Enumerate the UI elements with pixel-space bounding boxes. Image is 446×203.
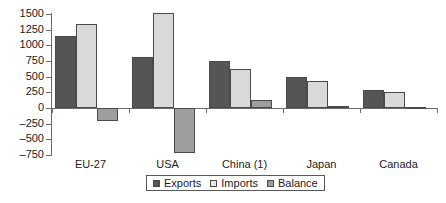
bar-imports-usa (153, 13, 174, 108)
y-tick-mark (46, 139, 52, 140)
bar-balance-canada (405, 107, 426, 109)
bar-imports-japan (307, 81, 328, 108)
x-tick-mark (129, 108, 130, 113)
legend-item-exports: Exports (153, 178, 201, 189)
bar-chart: 1500125010007505002500–250–500–750 EU-27… (0, 0, 446, 203)
x-axis-label-japan: Japan (283, 158, 360, 170)
legend-item-balance: Balance (267, 178, 318, 189)
y-tick-label: –750 (20, 149, 44, 160)
legend-label-imports: Imports (221, 178, 258, 189)
x-tick-mark (206, 108, 207, 113)
bar-exports-usa (132, 57, 153, 108)
y-tick-label: 750 (26, 55, 44, 66)
legend-label-exports: Exports (164, 178, 201, 189)
bar-balance-china-1 (251, 100, 272, 108)
x-axis-label-usa: USA (129, 158, 206, 170)
bar-balance-usa (174, 108, 195, 153)
x-axis-label-china-1: China (1) (206, 158, 283, 170)
y-tick-mark (46, 124, 52, 125)
bar-exports-canada (363, 90, 384, 108)
y-tick-mark (46, 155, 52, 156)
y-tick-mark (46, 92, 52, 93)
legend-swatch-balance-icon (267, 180, 274, 187)
y-tick-mark (46, 61, 52, 62)
y-tick-mark (46, 45, 52, 46)
x-axis-label-canada: Canada (360, 158, 437, 170)
x-tick-mark (52, 108, 53, 113)
x-tick-mark (283, 108, 284, 113)
y-tick-label: 1500 (20, 8, 44, 19)
bar-exports-china-1 (209, 61, 230, 108)
legend-label-balance: Balance (278, 178, 318, 189)
x-tick-mark (437, 108, 438, 113)
x-axis-label-eu-27: EU-27 (52, 158, 129, 170)
y-tick-label: 500 (26, 71, 44, 82)
bar-imports-canada (384, 92, 405, 108)
legend-swatch-exports-icon (153, 180, 160, 187)
y-tick-mark (46, 30, 52, 31)
bar-exports-japan (286, 77, 307, 108)
bar-imports-eu-27 (76, 24, 97, 108)
chart-legend: Exports Imports Balance (146, 175, 325, 191)
y-tick-label: 250 (26, 86, 44, 97)
bar-balance-eu-27 (97, 108, 118, 121)
bar-imports-china-1 (230, 69, 251, 108)
y-tick-label: 1250 (20, 24, 44, 35)
y-tick-label: –250 (20, 118, 44, 129)
y-tick-label: –500 (20, 133, 44, 144)
bar-balance-japan (328, 106, 349, 108)
x-tick-mark (360, 108, 361, 113)
legend-swatch-imports-icon (210, 180, 217, 187)
y-tick-label: 0 (38, 102, 44, 113)
y-tick-label: 1000 (20, 39, 44, 50)
legend-item-imports: Imports (210, 178, 258, 189)
y-tick-mark (46, 14, 52, 15)
y-tick-mark (46, 77, 52, 78)
bar-exports-eu-27 (55, 36, 76, 108)
y-axis-line (51, 13, 52, 156)
